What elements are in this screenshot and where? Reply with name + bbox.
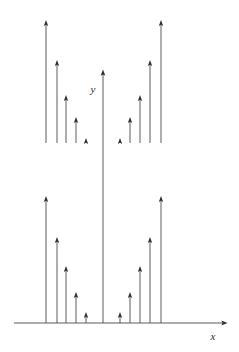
upper-impulse <box>128 117 132 143</box>
lower-impulse <box>44 196 48 323</box>
upper-impulse <box>84 138 88 144</box>
lower-impulse <box>128 292 132 323</box>
lower-impulse <box>138 266 142 323</box>
upper-impulse <box>64 95 68 143</box>
y-axis-label: y <box>90 83 96 95</box>
upper-impulse-arrowhead-icon <box>84 138 88 144</box>
upper-impulse <box>44 20 48 143</box>
upper-impulse <box>159 20 163 143</box>
impulse-stem-plot-figure: x y <box>0 0 239 352</box>
lower-impulse <box>148 237 152 323</box>
x-axis-group: x <box>14 321 228 342</box>
lower-impulse <box>55 237 59 323</box>
upper-impulse <box>118 138 122 144</box>
lower-impulse-band <box>44 196 163 323</box>
lower-impulse <box>84 312 88 323</box>
lower-impulse <box>118 312 122 323</box>
lower-impulse <box>64 266 68 323</box>
upper-impulse-band <box>44 20 163 144</box>
upper-impulse <box>138 95 142 143</box>
upper-impulse <box>55 60 59 143</box>
lower-impulse <box>74 292 78 323</box>
upper-impulse-arrowhead-icon <box>118 138 122 144</box>
plot-canvas: x y <box>0 0 239 352</box>
x-axis-label: x <box>210 330 216 342</box>
upper-impulse <box>148 60 152 143</box>
upper-impulse <box>74 117 78 143</box>
lower-impulse <box>159 196 163 323</box>
y-axis-group: y <box>90 70 106 324</box>
